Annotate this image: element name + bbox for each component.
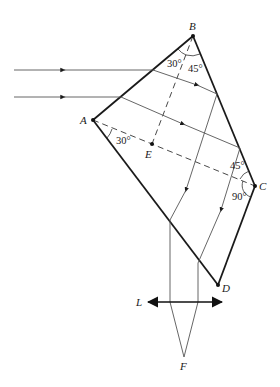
angle-label-acb: 45°: [230, 160, 245, 171]
label-d: D: [221, 282, 230, 294]
ray-lower-focused: [184, 302, 198, 357]
point-e: [150, 142, 154, 146]
label-a: A: [79, 114, 87, 126]
point-a: [91, 118, 95, 122]
label-b: B: [189, 20, 196, 32]
point-b: [191, 34, 195, 38]
angle-label-ebc: 45°: [188, 63, 203, 74]
ray-lower-inside: [121, 97, 183, 124]
arc-angle-b-45: [186, 54, 200, 56]
angle-label-abe: 30°: [167, 58, 182, 69]
ray-upper-reflected-cont: [170, 190, 186, 220]
angle-label-acd: 90°: [232, 191, 247, 202]
point-c: [253, 184, 257, 188]
arc-angle-a-30: [107, 129, 112, 138]
angle-label-ead: 30°: [116, 135, 131, 146]
edge-bc: [193, 36, 255, 186]
ray-lower-reflected-cont: [198, 210, 221, 263]
ray-upper-reflected: [186, 94, 217, 190]
label-l: L: [135, 296, 142, 308]
prism-optics-diagram: A B C D E F L 30° 45° 30° 45° 90°: [0, 0, 280, 387]
arc-angle-c-45: [240, 171, 249, 179]
light-rays: [14, 70, 240, 357]
label-c: C: [259, 180, 267, 192]
ray-upper-focused: [170, 302, 184, 357]
label-f: F: [179, 360, 187, 372]
arc-angle-b-30: [178, 49, 186, 55]
label-e: E: [144, 148, 152, 160]
point-d: [216, 283, 220, 287]
edge-ab: [93, 36, 193, 120]
